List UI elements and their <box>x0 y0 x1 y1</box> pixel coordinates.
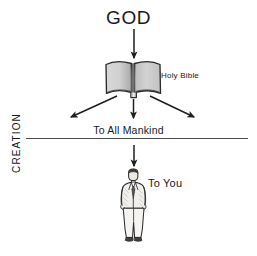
bible-right-page <box>135 62 161 94</box>
person-right-shoe <box>134 237 141 241</box>
label-to-you: To You <box>148 178 182 189</box>
person-left-shoe <box>126 237 133 241</box>
holy-bible-illustration <box>106 62 161 98</box>
label-holy-bible: Holy Bible <box>161 72 199 80</box>
person-illustration <box>121 169 146 241</box>
label-to-all-mankind: To All Mankind <box>0 125 257 136</box>
creation-diagram: GOD Holy Bible To All Mankind To You CRE… <box>0 0 257 256</box>
arrows-bible-to-mankind <box>71 96 194 118</box>
arrow-bible-right <box>150 96 194 117</box>
bible-binding <box>131 93 137 98</box>
bible-left-page <box>106 62 132 94</box>
page-title-god: GOD <box>0 8 257 27</box>
axis-label-creation: CREATION <box>12 113 22 173</box>
arrow-bible-left <box>71 96 117 117</box>
